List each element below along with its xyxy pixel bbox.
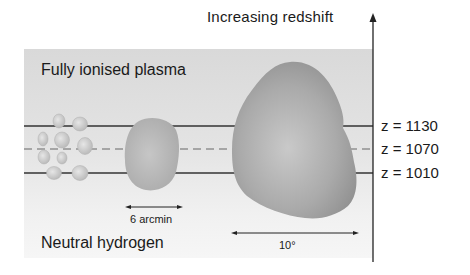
scale-label-10deg: 10° [279, 239, 296, 251]
scale-label-6arcmin: 6 arcmin [130, 213, 172, 225]
axis-arrow-icon [370, 13, 377, 22]
axis-label: Increasing redshift [207, 8, 333, 25]
small-blobs-cluster [38, 114, 93, 181]
medium-blob [125, 118, 179, 190]
region-label-neutral: Neutral hydrogen [41, 234, 164, 252]
scale-bar-10deg [231, 231, 359, 235]
scale-bar-6arcmin [125, 205, 183, 209]
z-label-1010: z = 1010 [381, 164, 439, 181]
region-label-ionised: Fully ionised plasma [41, 61, 186, 79]
large-blob [232, 62, 356, 219]
z-label-1070: z = 1070 [381, 140, 439, 157]
z-label-1130: z = 1130 [381, 117, 438, 134]
